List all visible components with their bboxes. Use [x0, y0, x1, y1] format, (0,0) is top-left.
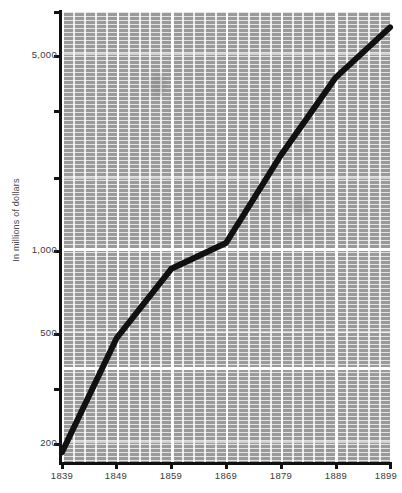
paper-artifact-b [150, 74, 166, 96]
y-tick-label-200: 200 [40, 437, 57, 448]
y-tick-label-500: 500 [40, 327, 57, 338]
grid-line-5000 [62, 53, 390, 55]
x-tick-1859 [170, 462, 173, 469]
x-tick-label-1879: 1879 [270, 470, 292, 481]
x-tick-label-1869: 1869 [215, 470, 237, 481]
grid-line-200 [62, 441, 390, 443]
x-tick-label-1849: 1849 [105, 470, 127, 481]
y-tick-300 [54, 388, 62, 391]
x-tick-1889 [335, 462, 338, 469]
x-tick-label-1889: 1889 [325, 470, 347, 481]
x-tick-1899 [389, 462, 392, 469]
y-axis-title: In millions of dollars [11, 160, 21, 280]
x-tick-1869 [225, 462, 228, 469]
chart-container: In millions of dollars 5,000 1,000 500 2… [0, 0, 402, 493]
y-tick-3000 [54, 110, 62, 113]
x-tick-1879 [280, 462, 283, 469]
x-tick-label-1859: 1859 [160, 470, 182, 481]
grid-major-vertical [62, 12, 390, 463]
grid-decade-1000 [62, 248, 390, 251]
y-tick-label-1000: 1,000 [32, 244, 57, 255]
y-tick-label-5000: 5,000 [32, 49, 57, 60]
plot-area [62, 12, 390, 463]
y-axis-line [59, 10, 62, 465]
y-tick-6000 [54, 11, 62, 14]
x-tick-label-1899: 1899 [375, 470, 397, 481]
x-tick-1839 [61, 462, 64, 469]
grid-line-2000 [62, 177, 390, 179]
paper-artifact-a [290, 197, 312, 213]
y-tick-2000 [54, 177, 62, 180]
grid-decade-100 [62, 367, 390, 370]
x-tick-1849 [115, 462, 118, 469]
x-tick-label-1839: 1839 [51, 470, 73, 481]
grid-line-500 [62, 331, 390, 333]
